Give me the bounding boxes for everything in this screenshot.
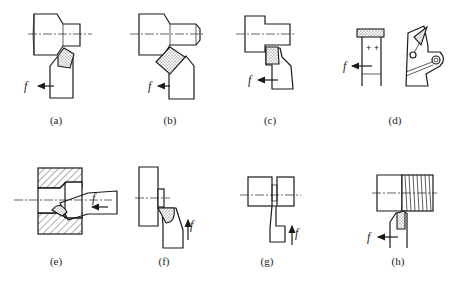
panel-a: f (a) xyxy=(24,14,92,127)
insert-icon xyxy=(397,211,405,229)
feed-label: f xyxy=(295,226,300,240)
insert-icon xyxy=(266,47,279,64)
panel-b: f (b) xyxy=(130,14,205,127)
panel-h: f (h) xyxy=(367,175,437,268)
feed-label: f xyxy=(248,73,253,87)
parting-tool xyxy=(270,206,285,242)
feed-label: f xyxy=(367,230,372,244)
feed-label: f xyxy=(190,218,195,232)
panel-c: f (c) xyxy=(236,16,296,127)
insert-icon xyxy=(158,208,174,223)
caption-g: (g) xyxy=(261,255,274,268)
insert-icon xyxy=(58,48,74,68)
feed-label: f xyxy=(343,59,348,73)
svg-text:+ +: + + xyxy=(366,43,379,53)
panel-e: f (e) xyxy=(14,168,117,268)
caption-c: (c) xyxy=(264,114,277,127)
caption-b: (b) xyxy=(164,114,177,127)
turning-tools-diagram: f (a) f (b) f (c) + + f xyxy=(0,0,455,281)
caption-h: (h) xyxy=(392,255,405,268)
caption-e: (e) xyxy=(50,255,63,268)
feed-label: f xyxy=(148,79,153,93)
caption-d: (d) xyxy=(389,114,402,127)
workpiece-left xyxy=(248,177,272,206)
panel-d: + + f (d) xyxy=(343,26,444,127)
panel-g: f (g) xyxy=(240,177,301,268)
feed-label: f xyxy=(92,191,97,205)
workpiece xyxy=(139,167,158,226)
workpiece-right xyxy=(277,177,294,206)
panel-f: f (f) xyxy=(135,167,195,268)
insert-icon xyxy=(357,29,384,37)
workpiece xyxy=(34,14,80,55)
feed-label: f xyxy=(24,79,29,93)
caption-f: (f) xyxy=(159,255,170,268)
caption-a: (a) xyxy=(50,114,63,127)
